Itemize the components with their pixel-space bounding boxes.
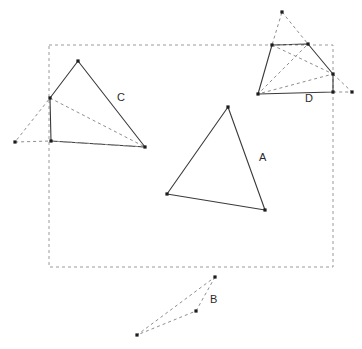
vertex-d-2	[331, 72, 334, 75]
vertex-b-0	[213, 275, 216, 278]
vertex-b-2	[135, 333, 138, 336]
shape-a	[167, 107, 265, 210]
vertex-layer	[13, 10, 353, 336]
vertex-d-dashed-apex-0	[280, 10, 283, 13]
vertex-b-1	[194, 309, 197, 312]
vertex-d-0	[270, 43, 273, 46]
vertex-a-1	[263, 208, 266, 211]
vertex-c-0	[76, 59, 79, 62]
shape-layer	[15, 12, 352, 335]
label-layer: ABCD	[117, 91, 313, 305]
vertex-a-2	[165, 192, 168, 195]
vertex-c-1	[143, 145, 146, 148]
shape-label-d: D	[305, 92, 313, 104]
shape-d-dashed-apex	[272, 12, 308, 45]
shape-d-dashed-tail	[333, 74, 352, 92]
shape-label-b: B	[210, 293, 217, 305]
shape-d-dashed-inner	[258, 44, 333, 94]
shape-label-c: C	[117, 91, 125, 103]
vertex-a-0	[226, 105, 229, 108]
figure-canvas: ABCD	[0, 0, 362, 349]
shape-label-a: A	[259, 151, 267, 163]
shape-b	[137, 277, 215, 335]
vertex-c-dashed-0	[13, 140, 16, 143]
vertex-d-dashed-tail-0	[350, 90, 353, 93]
vertex-c-3	[48, 96, 51, 99]
vertex-d-1	[306, 42, 309, 45]
vertex-d-4	[256, 92, 259, 95]
shape-c	[50, 61, 145, 147]
vertex-d-3	[331, 90, 334, 93]
geometry-figure: ABCD	[0, 0, 362, 349]
vertex-c-2	[49, 139, 52, 142]
